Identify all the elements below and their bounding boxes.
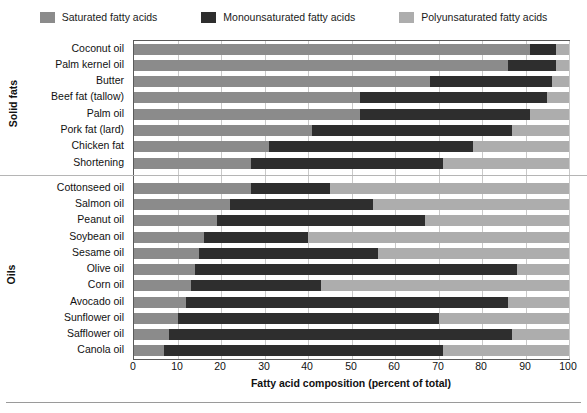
y-axis-label: Avocado oil	[70, 296, 124, 307]
bar-segment-saturated	[134, 76, 430, 87]
bar-row	[134, 158, 569, 169]
y-axis-label: Sunflower oil	[64, 312, 124, 323]
bar-segment-saturated	[134, 313, 178, 324]
bar-row	[134, 60, 569, 71]
bar-segment-saturated	[134, 44, 530, 55]
bar-segment-monounsaturated	[178, 313, 439, 324]
x-axis-tick-label: 20	[200, 360, 240, 373]
bar-segment-monounsaturated	[191, 280, 322, 291]
bar-segment-monounsaturated	[269, 141, 473, 152]
bar-segment-saturated	[134, 345, 164, 356]
bar-segment-polyunsaturated	[552, 76, 569, 87]
y-axis-label: Sesame oil	[72, 247, 124, 258]
bar-row	[134, 215, 569, 226]
bar-segment-saturated	[134, 264, 195, 275]
bar-row	[134, 232, 569, 243]
x-axis-tick-label: 80	[461, 360, 501, 373]
legend-label-polyunsaturated: Polyunsaturated fatty acids	[421, 12, 547, 23]
x-axis-tick-label: 50	[331, 360, 371, 373]
bar-segment-monounsaturated	[251, 158, 442, 169]
y-axis-label: Pork fat (lard)	[60, 124, 124, 135]
bar-segment-polyunsaturated	[439, 313, 570, 324]
legend-item-polyunsaturated: Polyunsaturated fatty acids	[399, 12, 547, 23]
y-axis-label: Safflower oil	[67, 328, 124, 339]
bar-row	[134, 199, 569, 210]
bar-rows	[134, 41, 569, 359]
y-axis-label: Corn oil	[88, 279, 124, 290]
bar-segment-polyunsaturated	[508, 297, 569, 308]
y-axis-label: Salmon oil	[75, 198, 124, 209]
bar-segment-polyunsaturated	[473, 141, 569, 152]
gridline	[569, 41, 570, 359]
x-axis-ticks: 0102030405060708090100	[133, 360, 569, 376]
bar-segment-polyunsaturated	[308, 232, 569, 243]
bar-segment-saturated	[134, 199, 230, 210]
section-separator	[0, 175, 587, 176]
bar-segment-monounsaturated	[186, 297, 508, 308]
bar-row	[134, 76, 569, 87]
bar-segment-monounsaturated	[360, 109, 530, 120]
bar-segment-saturated	[134, 248, 199, 259]
y-axis-label: Peanut oil	[77, 214, 124, 225]
bar-segment-saturated	[134, 60, 508, 71]
x-axis-tick-label: 30	[244, 360, 284, 373]
bar-row	[134, 248, 569, 259]
bar-segment-monounsaturated	[360, 92, 547, 103]
bar-segment-polyunsaturated	[425, 215, 569, 226]
bar-segment-polyunsaturated	[512, 329, 569, 340]
bar-segment-monounsaturated	[204, 232, 308, 243]
bar-segment-monounsaturated	[530, 44, 556, 55]
bar-segment-monounsaturated	[169, 329, 513, 340]
bar-segment-saturated	[134, 109, 360, 120]
bar-segment-saturated	[134, 329, 169, 340]
bar-segment-monounsaturated	[251, 183, 329, 194]
bar-segment-saturated	[134, 125, 312, 136]
bar-segment-polyunsaturated	[556, 60, 569, 71]
legend-item-monounsaturated: Monounsaturated fatty acids	[201, 12, 355, 23]
y-axis-label: Palm kernel oil	[55, 59, 124, 70]
y-axis-label: Canola oil	[77, 344, 124, 355]
legend-swatch-saturated-icon	[40, 12, 55, 23]
bar-row	[134, 280, 569, 291]
bar-segment-polyunsaturated	[378, 248, 569, 259]
bar-segment-saturated	[134, 183, 251, 194]
bar-segment-polyunsaturated	[556, 44, 569, 55]
legend-label-monounsaturated: Monounsaturated fatty acids	[223, 12, 355, 23]
bar-row	[134, 44, 569, 55]
plot-area	[133, 40, 570, 360]
bottom-rule	[6, 402, 581, 403]
chart-legend: Saturated fatty acids Monounsaturated fa…	[0, 6, 587, 28]
y-axis-label: Olive oil	[87, 263, 124, 274]
bar-segment-monounsaturated	[230, 199, 374, 210]
x-axis-title: Fatty acid composition (percent of total…	[133, 377, 569, 389]
bar-segment-polyunsaturated	[530, 109, 569, 120]
bar-segment-polyunsaturated	[512, 125, 569, 136]
x-axis-tick-label: 0	[113, 360, 153, 373]
bar-row	[134, 125, 569, 136]
bar-segment-polyunsaturated	[321, 280, 569, 291]
x-axis-tick-label: 10	[157, 360, 197, 373]
bar-segment-polyunsaturated	[517, 264, 569, 275]
bar-segment-saturated	[134, 232, 204, 243]
y-axis-label: Shortening	[73, 157, 124, 168]
x-axis-tick-label: 40	[287, 360, 327, 373]
bar-row	[134, 183, 569, 194]
bar-segment-polyunsaturated	[547, 92, 569, 103]
y-axis-label: Chicken fat	[71, 140, 124, 151]
bar-row	[134, 329, 569, 340]
bar-segment-monounsaturated	[508, 60, 556, 71]
bar-row	[134, 264, 569, 275]
bar-row	[134, 141, 569, 152]
bar-row	[134, 345, 569, 356]
bar-segment-monounsaturated	[199, 248, 377, 259]
x-axis-tick-label: 100	[548, 360, 587, 373]
legend-swatch-monounsaturated-icon	[201, 12, 216, 23]
legend-label-saturated: Saturated fatty acids	[62, 12, 158, 23]
bar-segment-saturated	[134, 297, 186, 308]
bar-row	[134, 297, 569, 308]
bar-segment-saturated	[134, 215, 217, 226]
x-axis-tick-label: 60	[374, 360, 414, 373]
bar-segment-saturated	[134, 280, 191, 291]
bar-segment-saturated	[134, 158, 251, 169]
legend-item-saturated: Saturated fatty acids	[40, 12, 158, 23]
